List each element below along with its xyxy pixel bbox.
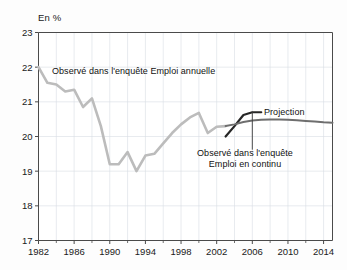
y-tick-label: 20 bbox=[22, 131, 33, 142]
chart-figure: En % 17181920212223198219861990199419982… bbox=[0, 0, 347, 270]
x-tick-label: 2002 bbox=[206, 246, 227, 257]
chart-canvas: 1718192021222319821986199019941998200220… bbox=[0, 0, 347, 270]
y-tick-label: 19 bbox=[22, 166, 33, 177]
annotation-observed-annual: Observé dans l'enquête Emploi annuelle bbox=[52, 66, 215, 77]
x-tick-label: 1998 bbox=[170, 246, 191, 257]
y-tick-label: 22 bbox=[22, 62, 33, 73]
annotation-projection: Projection bbox=[264, 107, 305, 118]
y-tick-label: 23 bbox=[22, 27, 33, 38]
x-tick-label: 2014 bbox=[313, 246, 334, 257]
y-tick-label: 17 bbox=[22, 235, 33, 246]
annotation-observed-continuous-line2: Emploi en continu bbox=[183, 159, 307, 170]
x-tick-label: 1982 bbox=[28, 246, 49, 257]
annotation-observed-continuous-line1: Observé dans l'enquête bbox=[197, 148, 293, 158]
annotation-observed-continuous: Observé dans l'enquête Emploi en continu bbox=[183, 148, 307, 170]
x-tick-label: 1990 bbox=[99, 246, 120, 257]
x-tick-label: 2010 bbox=[277, 246, 298, 257]
y-tick-label: 18 bbox=[22, 200, 33, 211]
x-tick-label: 1986 bbox=[64, 246, 85, 257]
x-tick-label: 1994 bbox=[135, 246, 156, 257]
x-tick-label: 2006 bbox=[242, 246, 263, 257]
y-tick-label: 21 bbox=[22, 96, 33, 107]
